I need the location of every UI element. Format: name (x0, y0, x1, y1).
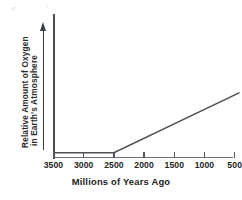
x-axis-tick-label: 3000 (74, 160, 94, 170)
x-axis-tick-label: 1500 (165, 160, 185, 170)
x-axis-tick (174, 152, 175, 158)
x-axis-tick (234, 152, 235, 158)
x-axis-tick-label: 1000 (195, 160, 215, 170)
scan-artifact: c (12, 4, 15, 12)
x-axis-tick-label: 500 (227, 160, 242, 170)
x-axis-tick (143, 152, 144, 158)
x-axis-tick-label: 2500 (104, 160, 124, 170)
x-axis-tick-label: 2000 (134, 160, 154, 170)
up-arrow-shaft (43, 30, 44, 150)
y-axis-label-line-2: in Earth's Atmosphere (30, 55, 38, 146)
x-axis-tick (204, 152, 205, 158)
x-axis-tick (83, 152, 84, 158)
x-axis-title: Millions of Years Ago (0, 176, 242, 187)
oxygen-curve (54, 93, 240, 153)
y-axis-line (53, 14, 55, 159)
x-axis-tick (113, 152, 114, 158)
x-axis-tick (53, 152, 54, 158)
x-axis-tick-label: 3500 (44, 160, 64, 170)
scan-artifact: | (46, 2, 47, 10)
oxygen-atmosphere-chart: c | Relative Amount of Oxygen in Earth's… (0, 0, 242, 200)
